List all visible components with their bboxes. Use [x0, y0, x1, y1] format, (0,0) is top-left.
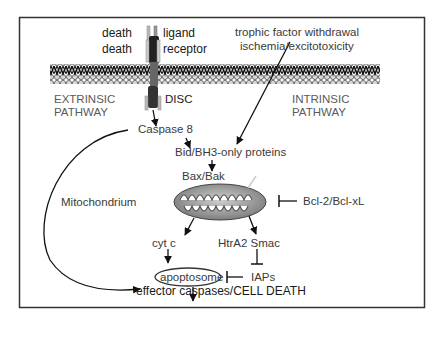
ligand-label: ligand [163, 27, 195, 40]
node-bax-bak: Bax/Bak [182, 170, 225, 183]
death-ligand-prefix: death [102, 27, 132, 40]
stimulus-trophic: trophic factor withdrawal [235, 26, 359, 39]
node-effector-caspases: effector caspases/CELL DEATH [136, 285, 306, 298]
intrinsic-label-line1: INTRINSIC [292, 93, 350, 106]
receptor-label: receptor [163, 43, 207, 56]
node-caspase8: Caspase 8 [138, 123, 193, 136]
node-bid: Bid/BH3-only proteins [175, 146, 286, 159]
node-iaps: IAPs [251, 271, 275, 284]
extrinsic-label-line2: PATHWAY [54, 106, 108, 119]
arrow-trophic-to-bid [237, 42, 290, 144]
extrinsic-label-line1: EXTRINSIC [54, 93, 115, 106]
node-cytc: cyt c [152, 237, 176, 250]
inhibit-iaps-to-apoptosome [227, 271, 243, 283]
intrinsic-label-line2: PATHWAY [292, 106, 346, 119]
node-apoptosome: apoptosome [160, 271, 223, 284]
arrow-mito-to-htra2 [249, 216, 256, 234]
node-htra2-smac: HtrA2 Smac [218, 237, 280, 250]
cell-membrane [50, 64, 380, 84]
inhibit-bcl2-to-mito [279, 195, 297, 207]
death-receptor-prefix: death [102, 43, 132, 56]
node-bcl2: Bcl-2/Bcl-xL [303, 195, 364, 208]
arrow-mito-to-cytc [185, 218, 194, 235]
node-mitochondrium: Mitochondrium [61, 196, 136, 209]
diagram-frame [20, 18, 425, 308]
disc-label: DISC [165, 93, 192, 106]
inhibit-htra2-to-iaps [251, 249, 263, 264]
arrow-caspase8-to-effector [44, 130, 140, 290]
apoptosis-pathway-diagram: death ligand death receptor EXTRINSIC PA… [0, 0, 441, 344]
stimulus-ischemia: ischemia/excitotoxicity [240, 40, 354, 53]
